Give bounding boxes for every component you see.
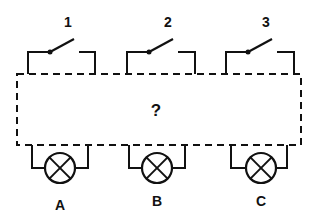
circuit-diagram: ? 1 2 3 A B: [0, 0, 320, 220]
switch-1: [28, 39, 95, 74]
switch-2-label: 2: [164, 14, 172, 30]
lamp-a-label: A: [55, 197, 65, 213]
switch-3-label: 3: [262, 14, 270, 30]
lamp-c-icon: [231, 145, 287, 183]
switch-2: [127, 39, 195, 74]
lamp-b-icon: [129, 145, 185, 183]
lamp-b-label: B: [152, 193, 162, 209]
unknown-box-label: ?: [151, 101, 161, 120]
switch-3: [226, 39, 294, 74]
lamp-c-label: C: [256, 193, 266, 209]
lamp-a-icon: [32, 145, 88, 183]
switch-1-label: 1: [64, 14, 72, 30]
